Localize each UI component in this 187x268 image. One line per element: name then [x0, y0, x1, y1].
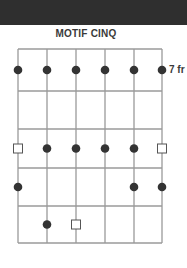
finger-dot-icon: [14, 183, 23, 192]
finger-dot-icon: [130, 144, 139, 153]
finger-dot-icon: [101, 144, 110, 153]
root-square-icon: [72, 220, 81, 229]
fret-position-label: 7 fr: [169, 64, 185, 75]
finger-dot-icon: [158, 183, 167, 192]
finger-dot-icon: [72, 66, 81, 75]
finger-dot-icon: [14, 66, 23, 75]
finger-dot-icon: [43, 220, 52, 229]
root-square-icon: [14, 144, 23, 153]
finger-dot-icon: [158, 66, 167, 75]
finger-dot-icon: [43, 144, 52, 153]
finger-dot-icon: [130, 183, 139, 192]
finger-dot-icon: [43, 66, 52, 75]
finger-dot-icon: [72, 144, 81, 153]
fretboard-diagram: [0, 0, 187, 268]
finger-dot-icon: [130, 66, 139, 75]
finger-dot-icon: [101, 66, 110, 75]
root-square-icon: [158, 144, 167, 153]
